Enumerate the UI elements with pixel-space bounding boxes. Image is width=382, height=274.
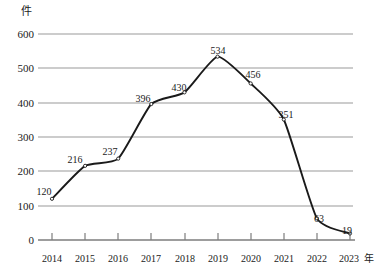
point-label-2015: 216 [62, 155, 88, 165]
y-tick-label-0: 0 [4, 235, 34, 246]
y-tick-label-400: 400 [4, 98, 34, 109]
chart-plot-area [0, 0, 382, 274]
x-tick-label-2020: 2020 [234, 253, 268, 264]
x-tick-label-2022: 2022 [300, 253, 334, 264]
x-tick-label-2019: 2019 [201, 253, 235, 264]
x-tick-label-2015: 2015 [68, 253, 102, 264]
data-series-line [52, 57, 350, 234]
y-tick-label-300: 300 [4, 132, 34, 143]
x-tick-label-2023: 2023 [332, 253, 366, 264]
y-tick-label-200: 200 [4, 166, 34, 177]
x-axis-unit-label: 年 [364, 253, 374, 264]
x-tick-label-2017: 2017 [134, 253, 168, 264]
point-label-2018: 430 [166, 83, 192, 93]
point-label-2020: 456 [240, 70, 266, 80]
point-label-2021: 351 [273, 110, 299, 120]
point-label-2016: 237 [97, 147, 123, 157]
data-point-2014 [50, 197, 53, 200]
data-point-markers [50, 55, 351, 235]
data-point-2020 [249, 82, 252, 85]
x-axis-ticks [52, 233, 350, 240]
data-point-2016 [117, 157, 120, 160]
y-tick-label-500: 500 [4, 63, 34, 74]
y-tick-label-100: 100 [4, 201, 34, 212]
x-tick-label-2021: 2021 [267, 253, 301, 264]
x-tick-label-2018: 2018 [168, 253, 202, 264]
point-label-2019: 534 [205, 46, 231, 56]
point-label-2017: 396 [130, 94, 156, 104]
y-tick-label-600: 600 [4, 29, 34, 40]
x-tick-label-2014: 2014 [35, 253, 69, 264]
gridlines [38, 34, 353, 206]
x-tick-label-2016: 2016 [101, 253, 135, 264]
point-label-2023: 19 [334, 226, 360, 236]
point-label-2014: 120 [31, 187, 57, 197]
line-chart: 件 600 500 4 [0, 0, 382, 274]
point-label-2022: 63 [306, 214, 332, 224]
